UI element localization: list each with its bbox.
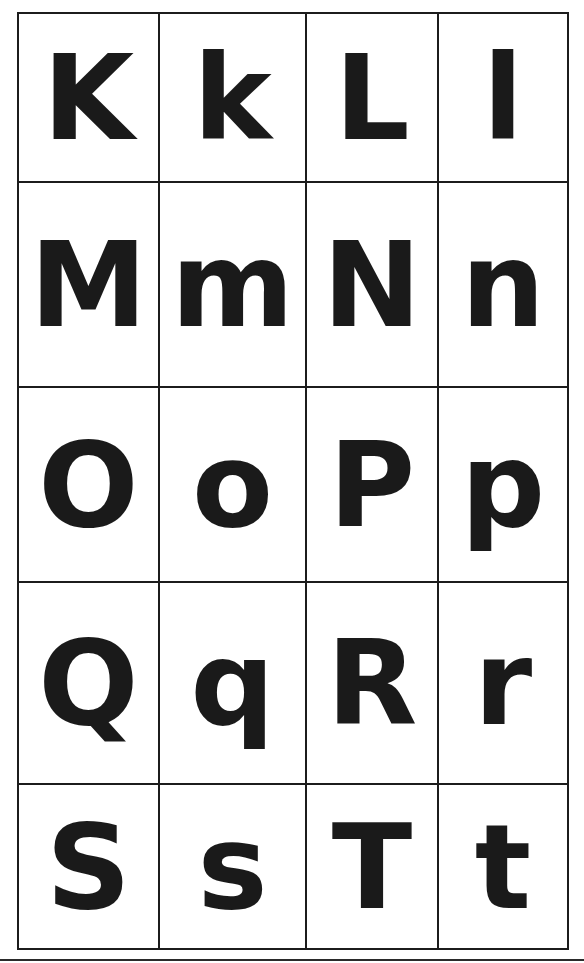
letter-card-n-lower: n <box>439 183 567 388</box>
letter-glyph: t <box>475 808 531 926</box>
letter-card-L-upper: L <box>307 14 439 183</box>
letter-glyph: K <box>43 39 134 157</box>
letter-card-q-lower: q <box>160 583 307 785</box>
letter-glyph: S <box>46 808 131 926</box>
letter-card-o-lower: o <box>160 388 307 583</box>
letter-card-p-lower: p <box>439 388 567 583</box>
letter-card-r-lower: r <box>439 583 567 785</box>
letter-card-l-lower: l <box>439 14 567 183</box>
letter-glyph: N <box>323 226 422 344</box>
letter-glyph: k <box>193 39 271 157</box>
letter-card-T-upper: T <box>307 785 439 948</box>
letter-glyph: o <box>192 426 273 544</box>
letter-card-O-upper: O <box>19 388 160 583</box>
letter-card-k-lower: k <box>160 14 307 183</box>
letter-glyph: T <box>332 808 413 926</box>
letter-card-m-lower: m <box>160 183 307 388</box>
letter-card-K-upper: K <box>19 14 160 183</box>
letter-card-Q-upper: Q <box>19 583 160 785</box>
letter-card-N-upper: N <box>307 183 439 388</box>
page-bottom-rule <box>0 959 584 961</box>
letter-card-S-upper: S <box>19 785 160 948</box>
alphabet-worksheet: K k L l M m N n O o P <box>0 0 584 963</box>
letter-card-s-lower: s <box>160 785 307 948</box>
letter-card-P-upper: P <box>307 388 439 583</box>
letter-card-t-lower: t <box>439 785 567 948</box>
letter-glyph: p <box>461 426 545 544</box>
letter-glyph: L <box>334 39 409 157</box>
letter-glyph: n <box>461 226 545 344</box>
letter-glyph: R <box>327 624 418 742</box>
letter-card-R-upper: R <box>307 583 439 785</box>
letter-glyph: O <box>38 426 138 544</box>
letter-glyph: M <box>30 226 147 344</box>
letter-glyph: q <box>190 624 274 742</box>
letter-glyph: m <box>171 226 294 344</box>
letter-glyph: P <box>329 426 415 544</box>
letter-glyph: l <box>483 39 523 157</box>
letter-glyph: s <box>197 808 267 926</box>
letter-grid: K k L l M m N n O o P <box>17 12 569 950</box>
letter-card-M-upper: M <box>19 183 160 388</box>
letter-glyph: Q <box>38 624 138 742</box>
letter-glyph: r <box>474 624 532 742</box>
